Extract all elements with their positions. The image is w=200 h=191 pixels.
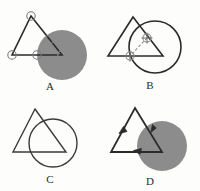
panel-c: C xyxy=(0,96,100,191)
arrowhead-left-edge xyxy=(119,127,127,134)
panel-a-label: A xyxy=(0,81,100,92)
shaded-circle xyxy=(137,121,187,171)
panel-d: D xyxy=(100,96,200,191)
triangle-outline xyxy=(13,109,66,152)
panel-a: A xyxy=(0,0,100,95)
circle-outline xyxy=(29,119,77,167)
arrowhead-bottom-edge xyxy=(134,149,142,155)
figure-root: A B C xyxy=(0,0,200,191)
panel-b-label: B xyxy=(100,80,200,91)
panel-d-label: D xyxy=(100,176,200,187)
circle-outline xyxy=(129,21,181,73)
panel-c-label: C xyxy=(0,174,100,185)
panel-b: B xyxy=(100,0,200,95)
